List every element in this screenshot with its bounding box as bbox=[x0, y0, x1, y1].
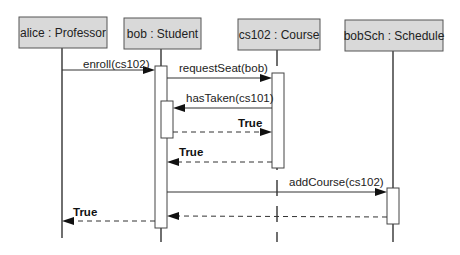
participant-label: bobSch : Schedule bbox=[344, 29, 445, 43]
participant-alice[interactable]: alice : Professor bbox=[19, 17, 107, 48]
participant-bobSch[interactable]: bobSch : Schedule bbox=[344, 20, 445, 51]
return-label: True bbox=[179, 146, 203, 158]
return-true-to-cs102: True bbox=[173, 117, 272, 136]
arrowhead-icon bbox=[62, 217, 74, 225]
participant-bob[interactable]: bob : Student bbox=[124, 18, 201, 49]
activation-bob bbox=[155, 66, 167, 228]
return-true-to-bob: True bbox=[167, 146, 272, 166]
arrowhead-icon bbox=[375, 188, 387, 196]
message-requestSeat: requestSeat(bob) bbox=[167, 62, 272, 82]
message-label: enroll(cs102) bbox=[83, 58, 150, 70]
message-enroll: enroll(cs102) bbox=[62, 58, 155, 74]
participant-label: bob : Student bbox=[127, 27, 199, 41]
participant-label: alice : Professor bbox=[20, 26, 106, 40]
activation-bob-nested bbox=[161, 101, 173, 138]
arrowhead-icon bbox=[260, 128, 272, 136]
arrowhead-icon bbox=[173, 104, 185, 112]
activation-cs102 bbox=[272, 73, 284, 168]
participant-label: cs102 : Course bbox=[239, 28, 320, 42]
return-label: True bbox=[238, 117, 262, 129]
activation-bobSch bbox=[387, 188, 399, 224]
participant-cs102[interactable]: cs102 : Course bbox=[238, 19, 320, 50]
return-label: True bbox=[73, 206, 97, 218]
return-true-to-alice: True bbox=[62, 206, 155, 225]
message-label: requestSeat(bob) bbox=[179, 62, 268, 74]
arrowhead-icon bbox=[167, 158, 179, 166]
message-label: hasTaken(cs101) bbox=[186, 92, 274, 104]
arrowhead-icon bbox=[167, 212, 179, 220]
arrowhead-icon bbox=[260, 74, 272, 82]
message-hasTaken: hasTaken(cs101) bbox=[173, 92, 274, 112]
sequence-diagram: alice : Professor bob : Student cs102 : … bbox=[0, 0, 460, 255]
message-label: addCourse(cs102) bbox=[289, 176, 384, 188]
